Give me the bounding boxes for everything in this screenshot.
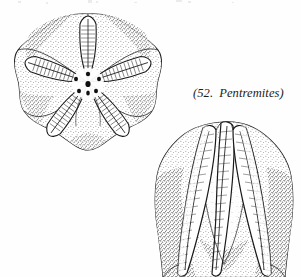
figure-caption: (52.Pentremites) <box>193 86 299 101</box>
figure-oral-view <box>15 14 162 150</box>
caption-genus: Pentremites <box>219 86 279 100</box>
mouth <box>85 81 90 87</box>
figure-side-view <box>155 122 293 277</box>
anal-opening <box>86 90 90 95</box>
caption-number: 52. <box>197 86 213 100</box>
figures-layer <box>0 0 301 277</box>
caption-close-paren: ) <box>280 86 284 100</box>
illustration-page: (52.Pentremites) <box>0 0 301 277</box>
